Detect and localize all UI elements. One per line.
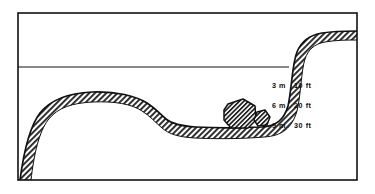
seabed-cross-section-figure: 3 m10 ft 6 m20 ft 9 m30 ft bbox=[0, 0, 375, 194]
depth-label-6m-imperial: 20 ft bbox=[294, 102, 312, 109]
depth-label-9m: 9 m30 ft bbox=[272, 122, 312, 129]
depth-label-6m: 6 m20 ft bbox=[272, 102, 312, 109]
depth-label-6m-metric: 6 m bbox=[272, 102, 294, 109]
depth-label-9m-metric: 9 m bbox=[272, 122, 294, 129]
depth-label-3m-imperial: 10 ft bbox=[294, 82, 312, 89]
depth-label-9m-imperial: 30 ft bbox=[294, 122, 312, 129]
large-boulder bbox=[224, 99, 256, 128]
depth-label-3m-metric: 3 m bbox=[272, 82, 294, 89]
figure-background bbox=[0, 0, 375, 194]
cross-section-drawing bbox=[0, 0, 375, 194]
depth-label-3m: 3 m10 ft bbox=[272, 82, 312, 89]
